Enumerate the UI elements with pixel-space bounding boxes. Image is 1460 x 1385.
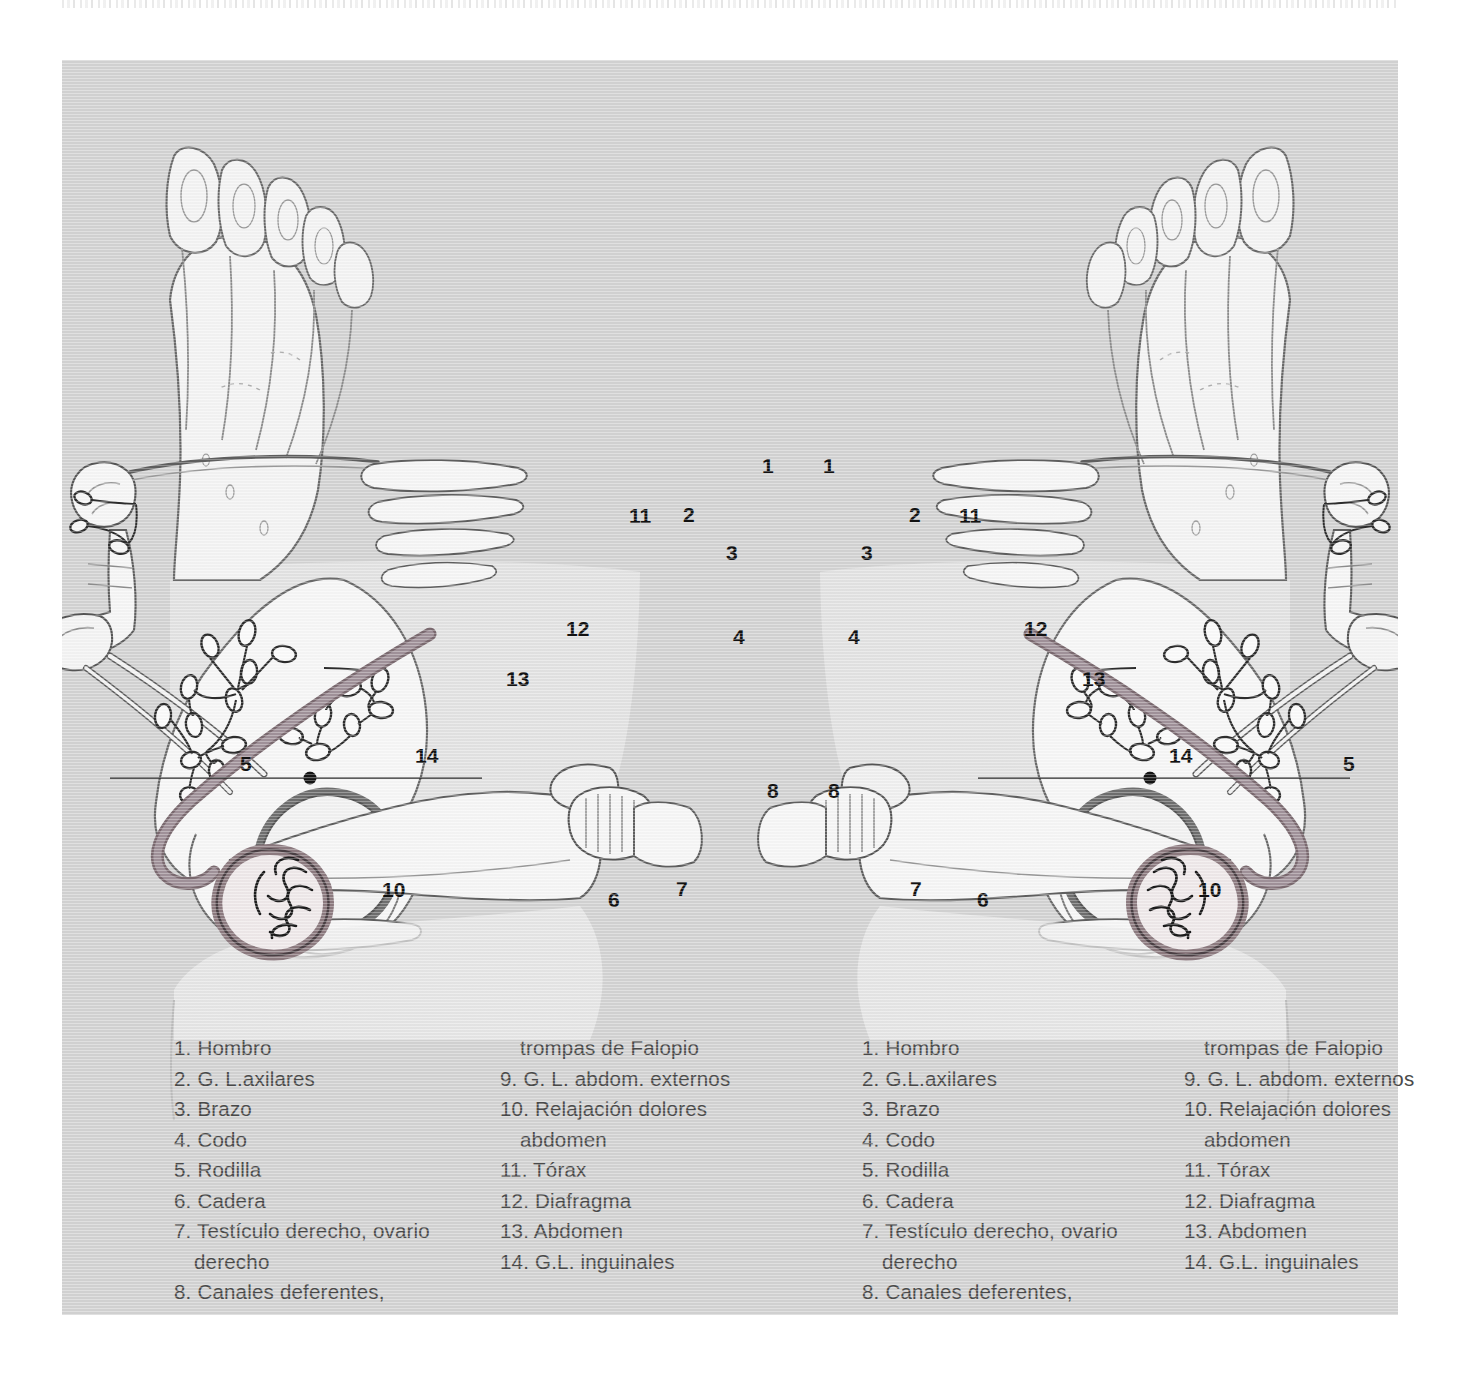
legend-right-c2-item-2: 10. Relajación dolores [1184, 1094, 1414, 1125]
legend-right-c1-item-2: 3. Brazo [862, 1094, 1118, 1125]
page-root: 1 2 3 4 5 6 7 8 10 11 12 13 14 1 2 3 4 5… [0, 0, 1460, 1385]
legend-left-c1-item-5: 6. Cadera [174, 1186, 430, 1217]
legend-left-c2-item-6: 13. Abdomen [500, 1216, 730, 1247]
legend-right-c1-item-0: 1. Hombro [862, 1033, 1118, 1064]
callout-left-2: 2 [683, 503, 695, 527]
legend-left-c1-item-6: 7. Testículo derecho, ovario [174, 1216, 430, 1247]
callout-right-5: 5 [1343, 752, 1355, 776]
callout-right-8: 8 [828, 779, 840, 803]
callout-right-3: 3 [861, 541, 873, 565]
legend-right-column-1: 1. Hombro2. G.L.axilares3. Brazo4. Codo5… [862, 1033, 1118, 1308]
legend-right-c1-item-6: 7. Testículo derecho, ovario [862, 1216, 1118, 1247]
callout-right-13: 13 [1082, 667, 1105, 691]
legend-left-c1-item-1: 2. G. L.axilares [174, 1064, 430, 1095]
legend-left-c2-item-3: abdomen [500, 1125, 730, 1156]
callout-left-7: 7 [676, 877, 688, 901]
legend-left-c1-item-4: 5. Rodilla [174, 1155, 430, 1186]
legend-left-column-2: trompas de Falopio9. G. L. abdom. extern… [500, 1033, 730, 1277]
legend-right-c1-item-8: 8. Canales deferentes, [862, 1277, 1118, 1308]
legend-right-c2-item-3: abdomen [1184, 1125, 1414, 1156]
legend-left-c2-item-2: 10. Relajación dolores [500, 1094, 730, 1125]
legend-right-c1-item-4: 5. Rodilla [862, 1155, 1118, 1186]
legend-right-c1-item-5: 6. Cadera [862, 1186, 1118, 1217]
callout-left-11: 11 [629, 504, 651, 528]
callout-left-3: 3 [726, 541, 738, 565]
callout-right-14: 14 [1169, 744, 1192, 768]
legend-left-c1-item-2: 3. Brazo [174, 1094, 430, 1125]
callout-right-2: 2 [909, 503, 921, 527]
legend-right-c2-item-1: 9. G. L. abdom. externos [1184, 1064, 1414, 1095]
callout-right-1: 1 [823, 454, 835, 478]
legend-left-c1-item-0: 1. Hombro [174, 1033, 430, 1064]
legend-left-c1-item-7: derecho [174, 1247, 430, 1278]
callout-left-5: 5 [240, 752, 252, 776]
callout-left-8: 8 [767, 779, 779, 803]
legend-right-c2-item-5: 12. Diafragma [1184, 1186, 1414, 1217]
callout-left-13: 13 [506, 667, 529, 691]
callout-right-10: 10 [1198, 878, 1221, 902]
callout-left-14: 14 [415, 744, 438, 768]
legend-left-c1-item-3: 4. Codo [174, 1125, 430, 1156]
callout-right-12: 12 [1024, 617, 1047, 641]
legend-left-c2-item-7: 14. G.L. inguinales [500, 1247, 730, 1278]
legend-right-c2-item-6: 13. Abdomen [1184, 1216, 1414, 1247]
callout-right-7: 7 [910, 877, 922, 901]
callout-right-6: 6 [977, 888, 989, 912]
callout-left-10: 10 [382, 878, 405, 902]
legend-left-column-1: 1. Hombro2. G. L.axilares3. Brazo4. Codo… [174, 1033, 430, 1308]
legend-right-c1-item-3: 4. Codo [862, 1125, 1118, 1156]
left-foot-anatomy [62, 148, 702, 1120]
legend-right-column-2: trompas de Falopio9. G. L. abdom. extern… [1184, 1033, 1414, 1277]
callout-left-6: 6 [608, 888, 620, 912]
callout-right-11: 11 [959, 504, 981, 528]
legend-left-c2-item-5: 12. Diafragma [500, 1186, 730, 1217]
callout-left-1: 1 [762, 454, 774, 478]
legend-left-c1-item-8: 8. Canales deferentes, [174, 1277, 430, 1308]
callout-right-4: 4 [848, 625, 860, 649]
legend-right-c1-item-1: 2. G.L.axilares [862, 1064, 1118, 1095]
legend-right-c2-item-4: 11. Tórax [1184, 1155, 1414, 1186]
callout-left-4: 4 [733, 625, 745, 649]
scan-bleed-artifact [62, 0, 1398, 8]
illustration-plate: 1 2 3 4 5 6 7 8 10 11 12 13 14 1 2 3 4 5… [62, 60, 1398, 1315]
callout-left-12: 12 [566, 617, 589, 641]
legend-left-c2-item-0: trompas de Falopio [500, 1033, 730, 1064]
legend-right-c2-item-7: 14. G.L. inguinales [1184, 1247, 1414, 1278]
legend-right-c1-item-7: derecho [862, 1247, 1118, 1278]
legend-left-c2-item-4: 11. Tórax [500, 1155, 730, 1186]
legend-left-c2-item-1: 9. G. L. abdom. externos [500, 1064, 730, 1095]
legend-right-c2-item-0: trompas de Falopio [1184, 1033, 1414, 1064]
